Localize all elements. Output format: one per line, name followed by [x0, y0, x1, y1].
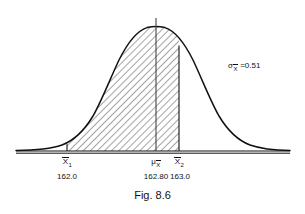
value-label-x2: 163.0	[162, 173, 198, 181]
figure-caption: Fig. 8.6	[0, 190, 305, 201]
sigma-annotation: σX =0.51	[228, 62, 260, 72]
tick-label-x2: X2	[164, 158, 194, 168]
sigma-equals-value: =0.51	[238, 61, 260, 70]
sigma-subscript: X	[233, 66, 238, 72]
figure-container: X1 μX X2 162.0 162.80 163.0 σX =0.51 Fig…	[0, 0, 305, 214]
value-label-x1: 162.0	[49, 173, 85, 181]
tick-label-x1: X1	[52, 158, 82, 168]
shaded-area	[16, 26, 290, 151]
normal-distribution-plot	[0, 0, 305, 214]
